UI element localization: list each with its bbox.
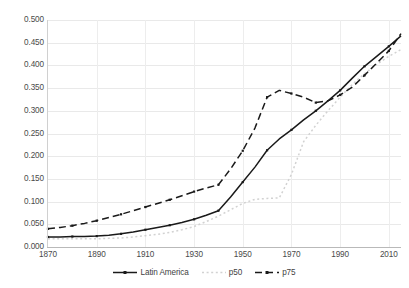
data-series-layer — [48, 20, 401, 247]
series-line-p75 — [48, 34, 401, 229]
line-chart: 0.0000.0500.1000.1500.2000.2500.3000.350… — [0, 0, 409, 288]
x-axis-tick-label: 1970 — [271, 250, 311, 259]
legend-swatch-p50-icon — [202, 268, 226, 277]
chart-legend: Latin Americap50p75 — [0, 268, 409, 277]
series-marker — [144, 229, 146, 231]
series-marker — [217, 184, 219, 186]
plot-area — [48, 20, 401, 247]
y-axis-tick-label: 0.400 — [2, 61, 44, 69]
series-marker — [96, 220, 98, 222]
series-marker — [71, 235, 73, 237]
series-line-p50 — [48, 50, 401, 239]
x-axis-line — [47, 247, 401, 248]
series-marker — [193, 218, 195, 220]
series-marker — [144, 206, 146, 208]
legend-swatch-latin-america-icon — [113, 268, 137, 277]
legend-label-p50: p50 — [229, 268, 242, 277]
series-marker — [290, 92, 292, 94]
legend-item-p75[interactable]: p75 — [255, 268, 295, 277]
legend-label-latin-america: Latin America — [140, 268, 188, 277]
y-axis-tick-label: 0.500 — [2, 16, 44, 24]
legend-item-latin-america[interactable]: Latin America — [113, 268, 188, 277]
y-axis-tick-label: 0.200 — [2, 152, 44, 160]
series-marker — [290, 129, 292, 131]
series-marker — [315, 102, 317, 104]
y-axis-line — [47, 20, 48, 248]
x-axis-tick-label: 1870 — [28, 250, 68, 259]
y-axis-tick-label: 0.050 — [2, 220, 44, 228]
series-marker — [266, 149, 268, 151]
y-axis-tick-label: 0.150 — [2, 175, 44, 183]
series-marker — [339, 94, 341, 96]
y-axis-tick-label: 0.250 — [2, 130, 44, 138]
series-marker — [96, 235, 98, 237]
y-axis-tick-label: 0.350 — [2, 84, 44, 92]
x-axis-tick-label: 1950 — [223, 250, 263, 259]
series-marker — [315, 110, 317, 112]
series-marker — [217, 210, 219, 212]
x-axis-tick-label: 1990 — [320, 250, 360, 259]
series-marker — [388, 45, 390, 47]
series-line-latin-america — [48, 36, 401, 237]
y-axis-tick-label: 0.300 — [2, 107, 44, 115]
series-marker — [266, 96, 268, 98]
series-marker — [242, 181, 244, 183]
series-marker — [339, 89, 341, 91]
y-axis-tick-label: 0.450 — [2, 39, 44, 47]
legend-swatch-p75-icon — [255, 268, 279, 277]
series-marker — [388, 50, 390, 52]
y-axis-tick-label: 0.100 — [2, 198, 44, 206]
series-marker — [71, 225, 73, 227]
x-axis-tick-label: 1910 — [125, 250, 165, 259]
series-marker — [120, 213, 122, 215]
series-marker — [120, 233, 122, 235]
series-marker — [363, 65, 365, 67]
series-marker — [363, 74, 365, 76]
series-marker — [242, 150, 244, 152]
series-marker — [193, 191, 195, 193]
x-axis-tick-label: 1930 — [174, 250, 214, 259]
legend-item-p50[interactable]: p50 — [202, 268, 242, 277]
series-marker — [169, 199, 171, 201]
legend-label-p75: p75 — [282, 268, 295, 277]
series-marker — [169, 224, 171, 226]
x-axis-tick-label: 2010 — [369, 250, 409, 259]
x-axis-tick-label: 1890 — [77, 250, 117, 259]
y-axis-tick-labels: 0.0000.0500.1000.1500.2000.2500.3000.350… — [0, 0, 44, 288]
